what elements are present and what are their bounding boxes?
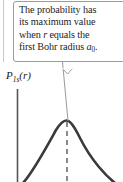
callout-notch-icon <box>62 61 73 68</box>
y-axis-label: P1s(r) <box>6 69 31 81</box>
callout-line-4-pre: first Bohr radius <box>19 41 87 52</box>
y-axis-label-sub: 1s <box>13 75 20 84</box>
callout-sub-0: 0 <box>92 46 96 54</box>
probability-curve <box>22 120 122 182</box>
radial-probability-figure: The probability has its maximum value wh… <box>0 0 123 182</box>
callout-line-3: when r equals the <box>19 29 123 41</box>
callout-line-2: its maximum value <box>19 16 123 28</box>
page-edge-rule <box>3 0 4 62</box>
callout-line-4-post: . <box>95 41 97 52</box>
callout-var-a: a <box>87 41 92 52</box>
annotation-callout: The probability has its maximum value wh… <box>13 1 123 62</box>
callout-line-3-post: equals the <box>47 29 89 40</box>
callout-line-4: first Bohr radius a0. <box>19 41 123 54</box>
callout-line-3-pre: when <box>19 29 43 40</box>
callout-var-a0: a0 <box>87 41 96 52</box>
callout-text: The probability has its maximum value wh… <box>19 4 123 55</box>
y-axis-label-main: P <box>6 69 13 81</box>
callout-line-1: The probability has <box>19 4 123 16</box>
y-axis-label-arg: (r) <box>19 69 31 81</box>
